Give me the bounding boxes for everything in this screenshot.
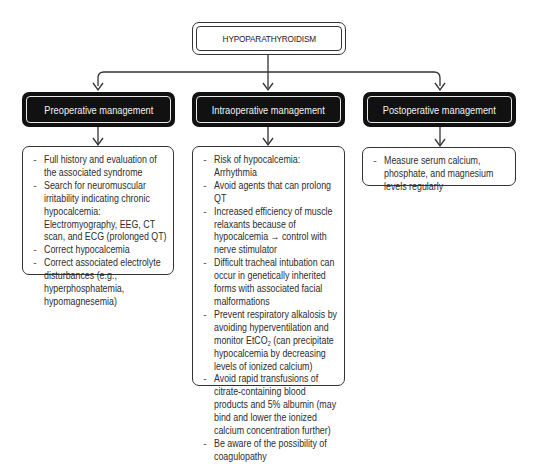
preoperative-list: -Full history and evaluation of the asso… xyxy=(31,154,167,309)
bullet-icon: - xyxy=(31,244,39,257)
postoperative-list: -Measure serum calcium, phosphate, and m… xyxy=(371,155,509,194)
list-item: -Prevent respiratory alkalosis by avoidi… xyxy=(201,309,338,374)
bullet-icon: - xyxy=(31,180,39,193)
root-node-inner: HYPOPARATHYROIDISM xyxy=(196,26,342,51)
list-item: -Correct hypocalcemia xyxy=(31,244,167,257)
preoperative-header: Preoperative management xyxy=(22,92,175,127)
bullet-icon: - xyxy=(201,309,209,322)
preoperative-header-label: Preoperative management xyxy=(44,104,153,116)
list-item: -Correct associated electrolyte disturba… xyxy=(31,257,167,309)
list-item: -Avoid rapid transfusions of citrate-con… xyxy=(201,373,338,438)
postoperative-content-box: -Measure serum calcium, phosphate, and m… xyxy=(362,147,516,186)
list-item: -Avoid agents that can prolong QT xyxy=(201,180,338,206)
bullet-icon: - xyxy=(201,373,209,386)
postoperative-header: Postoperative management xyxy=(363,92,516,127)
list-item: -Measure serum calcium, phosphate, and m… xyxy=(371,155,509,194)
list-item: -Increased efficiency of muscle relaxant… xyxy=(201,206,338,258)
root-node: HYPOPARATHYROIDISM xyxy=(192,22,346,55)
intraoperative-header: Intraoperative management xyxy=(192,92,345,127)
bullet-icon: - xyxy=(201,257,209,270)
bullet-icon: - xyxy=(31,257,39,270)
list-item: -Full history and evaluation of the asso… xyxy=(31,154,167,180)
list-item: -Difficult tracheal intubation can occur… xyxy=(201,257,338,309)
list-item: -Search for neuromuscular irritability i… xyxy=(31,180,167,245)
root-title: HYPOPARATHYROIDISM xyxy=(222,33,315,44)
bullet-icon: - xyxy=(31,154,39,167)
etco2-item: Prevent respiratory alkalosis by avoidin… xyxy=(214,309,338,374)
bullet-icon: - xyxy=(201,154,209,167)
intraoperative-header-label: Intraoperative management xyxy=(212,104,325,116)
postoperative-header-label: Postoperative management xyxy=(383,104,496,116)
list-item: -Be aware of the possibility of coagulop… xyxy=(201,438,338,464)
bullet-icon: - xyxy=(371,155,379,168)
bullet-icon: - xyxy=(201,180,209,193)
preoperative-content-box: -Full history and evaluation of the asso… xyxy=(22,146,174,275)
intraoperative-content-box: -Risk of hypocalcemia: Arrhythmia -Avoid… xyxy=(192,146,345,386)
bullet-icon: - xyxy=(201,206,209,219)
intraoperative-list: -Risk of hypocalcemia: Arrhythmia -Avoid… xyxy=(201,154,338,464)
bullet-icon: - xyxy=(201,438,209,451)
list-item: -Risk of hypocalcemia: Arrhythmia xyxy=(201,154,338,180)
